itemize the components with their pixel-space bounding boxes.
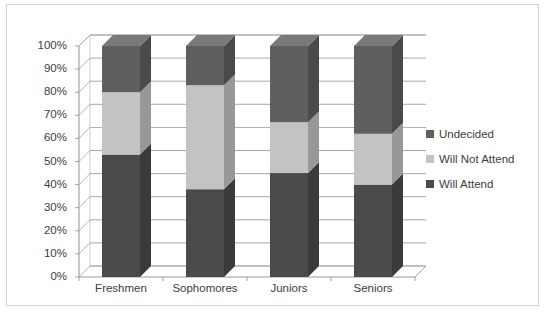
y-axis-tick-label: 0% bbox=[21, 271, 67, 282]
x-axis-tick-label: Seniors bbox=[331, 282, 415, 294]
y-axis-tick-label: 50% bbox=[21, 156, 67, 167]
legend-item[interactable]: Undecided bbox=[426, 128, 536, 140]
bar-segment-side-face bbox=[308, 162, 319, 277]
bar-segment-front-face bbox=[354, 185, 392, 277]
gridline-depth bbox=[79, 58, 90, 69]
y-axis-tick-label: 30% bbox=[21, 202, 67, 213]
y-axis-tick-label: 80% bbox=[21, 86, 67, 97]
legend-swatch-icon bbox=[426, 130, 434, 138]
bar-segment-front-face bbox=[102, 92, 140, 154]
floor-right-diagonal bbox=[415, 266, 426, 277]
gridline-depth bbox=[79, 243, 90, 254]
bar-segment-front-face bbox=[270, 173, 308, 277]
bar-segment-front-face bbox=[354, 46, 392, 134]
legend-item-label: Will Attend bbox=[439, 178, 493, 190]
bar-segment-side-face bbox=[140, 81, 151, 154]
bar-segment-side-face bbox=[140, 144, 151, 277]
gridline-depth bbox=[79, 197, 90, 208]
gridline-depth bbox=[79, 127, 90, 138]
gridline-depth bbox=[79, 151, 90, 162]
y-axis: 100%90%80%70%60%50%40%30%20%10%0% bbox=[15, 5, 67, 307]
bar-segment-front-face bbox=[186, 46, 224, 85]
chart-container: 100%90%80%70%60%50%40%30%20%10%0% Freshm… bbox=[6, 4, 539, 306]
y-axis-tick-label: 40% bbox=[21, 179, 67, 190]
legend-item-label: Will Not Attend bbox=[439, 153, 514, 165]
bar-segment-front-face bbox=[186, 189, 224, 277]
y-axis-tick-label: 70% bbox=[21, 109, 67, 120]
legend-item[interactable]: Will Not Attend bbox=[426, 153, 536, 165]
gridline-depth bbox=[79, 266, 90, 277]
bar-segment-front-face bbox=[354, 134, 392, 185]
legend-item-label: Undecided bbox=[439, 128, 494, 140]
x-axis-tick-label: Juniors bbox=[247, 282, 331, 294]
y-axis-tick-label: 20% bbox=[21, 225, 67, 236]
gridline-depth bbox=[79, 174, 90, 185]
chart-legend: UndecidedWill Not AttendWill Attend bbox=[426, 128, 536, 203]
legend-swatch-icon bbox=[426, 155, 434, 163]
gridline-depth bbox=[79, 81, 90, 92]
y-axis-tick-label: 100% bbox=[21, 40, 67, 51]
y-axis-tick-label: 90% bbox=[21, 63, 67, 74]
x-axis-tick-label: Freshmen bbox=[79, 282, 163, 294]
bar-segment-front-face bbox=[102, 46, 140, 92]
gridline-depth bbox=[79, 220, 90, 231]
bar-segment-side-face bbox=[392, 35, 403, 134]
gridline-depth bbox=[79, 104, 90, 115]
y-axis-tick-label: 10% bbox=[21, 248, 67, 259]
bar-segment-side-face bbox=[224, 178, 235, 277]
bar-segment-front-face bbox=[270, 46, 308, 122]
plot-top-left-diagonal bbox=[79, 35, 90, 46]
bar-segment-side-face bbox=[392, 174, 403, 277]
bar-segment-front-face bbox=[186, 85, 224, 189]
y-axis-tick-label: 60% bbox=[21, 132, 67, 143]
bar-segment-front-face bbox=[102, 155, 140, 277]
bar-segment-side-face bbox=[308, 35, 319, 122]
legend-item[interactable]: Will Attend bbox=[426, 178, 536, 190]
bar-segment-front-face bbox=[270, 122, 308, 173]
bar-segment-side-face bbox=[224, 74, 235, 189]
x-axis-tick-label: Sophomores bbox=[163, 282, 247, 294]
legend-swatch-icon bbox=[426, 180, 434, 188]
